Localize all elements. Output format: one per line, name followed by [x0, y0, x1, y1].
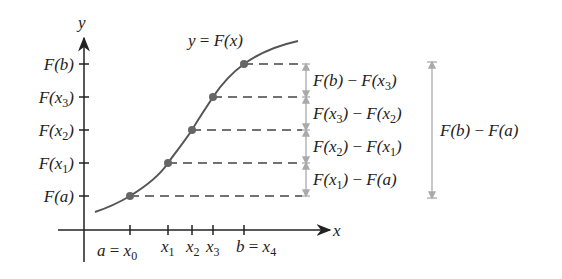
y-tick-labels: F(b) F(x3) F(x2) F(x1) F(a) — [38, 55, 75, 206]
total-difference-label: F(b) − F(a) — [439, 121, 519, 140]
svg-text:F(x3) − F(x2): F(x3) − F(x2) — [312, 104, 402, 126]
telescoping-sum-diagram: x y F(b) F(x3) F(x2) F(x1) F(a) a = x0 x… — [0, 0, 562, 279]
svg-text:F(x1) − F(a): F(x1) − F(a) — [312, 170, 397, 192]
y-axis-label: y — [76, 13, 86, 32]
difference-brackets — [302, 64, 310, 196]
svg-text:a = x0: a = x0 — [97, 241, 137, 263]
svg-text:F(a): F(a) — [43, 187, 75, 206]
svg-text:x3: x3 — [205, 237, 220, 259]
difference-labels: F(b) − F(x3) F(x3) − F(x2) F(x2) − F(x1)… — [312, 71, 402, 192]
svg-text:F(x3): F(x3) — [38, 88, 75, 110]
total-bracket — [427, 62, 437, 198]
x-tick-labels: a = x0 x1 x2 x3 b = x4 — [97, 237, 276, 263]
svg-text:F(x2): F(x2) — [38, 121, 75, 143]
curve-label: y = F(x) — [186, 31, 243, 50]
svg-text:x2: x2 — [185, 237, 200, 259]
svg-text:x1: x1 — [160, 237, 175, 259]
svg-text:F(b) − F(x3): F(b) − F(x3) — [312, 71, 397, 93]
x-axis-label: x — [332, 221, 341, 240]
svg-text:F(b): F(b) — [43, 55, 75, 74]
svg-text:F(x2) − F(x1): F(x2) − F(x1) — [312, 137, 402, 159]
svg-text:b = x4: b = x4 — [236, 237, 276, 259]
function-curve — [95, 41, 298, 212]
svg-text:F(x1): F(x1) — [38, 154, 75, 176]
